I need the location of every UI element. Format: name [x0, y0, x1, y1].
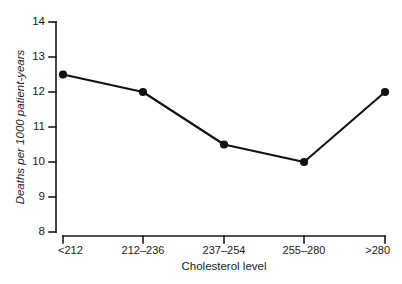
y-tick-label-10: 10 — [32, 155, 45, 167]
y-axis-ticks — [49, 22, 56, 232]
y-axis-tick-labels: 14 13 12 11 10 9 8 — [32, 15, 45, 237]
line-chart-canvas: 14 13 12 11 10 9 8 Deaths per 1000 patie… — [0, 0, 402, 284]
data-point-4 — [381, 88, 389, 96]
y-tick-label-13: 13 — [32, 50, 45, 62]
y-axis-title: Deaths per 1000 patient-years — [14, 49, 26, 204]
data-point-2 — [220, 140, 228, 148]
data-point-1 — [139, 88, 147, 96]
x-tick-label-2: 237–254 — [203, 244, 246, 256]
data-point-0 — [59, 70, 67, 78]
x-tick-label-0: <212 — [58, 244, 83, 256]
x-tick-label-3: 255–280 — [283, 244, 326, 256]
x-tick-label-4: >280 — [365, 244, 390, 256]
x-axis-tick-labels: <212 212–236 237–254 255–280 >280 — [58, 244, 390, 256]
y-tick-label-14: 14 — [32, 15, 45, 27]
y-tick-label-11: 11 — [33, 120, 45, 132]
y-tick-label-12: 12 — [32, 85, 45, 97]
series-line-deaths — [63, 75, 385, 163]
data-point-3 — [300, 158, 308, 166]
chart-figure: 14 13 12 11 10 9 8 Deaths per 1000 patie… — [0, 0, 402, 284]
x-tick-label-1: 212–236 — [122, 244, 165, 256]
x-axis-ticks — [63, 236, 385, 243]
x-axis-title: Cholesterol level — [181, 260, 266, 272]
y-tick-label-8: 8 — [39, 225, 45, 237]
y-tick-label-9: 9 — [39, 190, 45, 202]
